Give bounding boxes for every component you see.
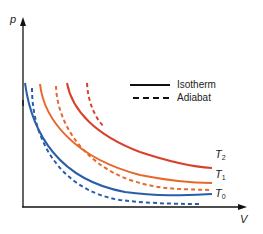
curve-label-t0: T0: [215, 188, 226, 200]
x-axis-label: V: [240, 214, 247, 225]
adiabat-t2: [87, 83, 104, 127]
curve-label-t2: T2: [215, 149, 226, 161]
adiabat-t0: [32, 88, 200, 204]
y-axis-label: p: [10, 14, 16, 25]
legend-isotherm-label: Isotherm: [177, 80, 216, 90]
x-axis-arrow-icon: [238, 204, 247, 210]
y-axis-arrow-icon: [20, 17, 26, 26]
curve-label-t1: T1: [215, 169, 226, 181]
legend-adiabat-label: Adiabat: [177, 93, 211, 103]
